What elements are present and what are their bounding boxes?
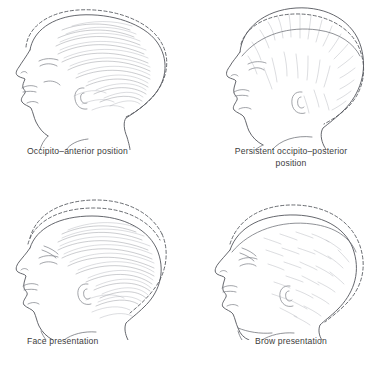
caption-occipito-anterior: Occipito–anterior position [0,146,194,158]
caption-persistent-occipito-posterior: Persistent occipito–posterior position [194,146,388,169]
caption-brow-presentation: Brow presentation [194,336,388,348]
cheek-line [44,81,60,85]
hair-shading [56,22,150,111]
forehead-crease-2 [42,250,56,258]
eyebrow-line [248,62,266,64]
face-profile-outline [215,250,249,340]
nostril-line [220,271,227,273]
ear-inner [81,93,87,103]
ear-inner [84,289,90,299]
dashed-moulding-outline [26,10,167,117]
head-outline [230,215,356,340]
panel-persistent-occipito-posterior: Persistent occipito–posterior position [194,0,388,186]
illustration-occipito-anterior [0,0,194,150]
lip-line [24,289,37,290]
illustration-face-presentation [0,190,194,340]
dashed-moulding-outline [230,205,363,322]
illustration-brow-presentation [194,190,388,340]
lip-line [223,291,236,292]
eye-line [40,262,57,264]
panel-brow-presentation: Brow presentation [194,190,388,371]
hair-shading [58,223,154,318]
nostril-line [21,269,28,271]
nostril-line [21,72,27,74]
lip-line [23,91,36,92]
face-profile-outline [227,52,263,145]
head-outline [30,15,165,150]
eyebrow-line [39,59,58,61]
jaw-line [238,328,272,333]
panel-face-presentation: Face presentation [0,190,194,371]
illustration-persistent-occipito-posterior [194,0,388,150]
chin-crease [27,102,38,104]
mouth-line [222,286,237,288]
ear-outline [280,286,293,307]
eye-line [249,68,264,70]
forehead-crease-2 [240,253,254,261]
chin-crease [28,303,39,305]
figure-fetal-head-moulding: Occipito–anterior position [0,0,388,371]
forehead-crease-1 [44,246,58,254]
head-outline [30,216,161,340]
caption-face-presentation: Face presentation [0,336,194,348]
dashed-moulding-outline [241,14,364,124]
ear-inner [286,291,292,301]
eye-line [240,264,256,266]
nostril-line [231,75,238,77]
ear-outline [292,92,305,114]
mouth-line [234,90,249,92]
ear-outline [78,284,91,305]
mouth-line [23,284,38,286]
ear-inner [298,97,304,108]
chin-crease [239,108,251,110]
eye-line [40,64,57,66]
chin-crease [227,305,238,307]
panel-occipito-anterior: Occipito–anterior position [0,0,194,186]
eyebrow-line [239,258,257,260]
vault-band-line [242,29,360,56]
lip-line [235,95,248,96]
face-profile-outline [16,50,48,136]
mouth-line [22,86,37,88]
